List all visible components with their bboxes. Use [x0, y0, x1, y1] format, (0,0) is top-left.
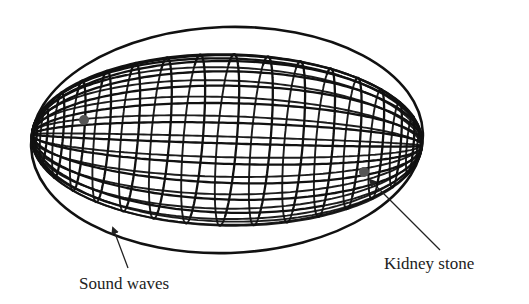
wireframe-line	[378, 89, 385, 183]
wireframe-line	[102, 71, 111, 182]
wireframe-line	[149, 69, 162, 219]
wireframe-line	[92, 84, 101, 202]
wireframe-line	[326, 68, 335, 194]
kidney-stone-label: Kidney stone	[384, 255, 474, 272]
wireframe-line	[263, 57, 273, 200]
wireframe-line	[296, 61, 306, 198]
source-focus-dot	[79, 115, 89, 125]
wireframe-line	[181, 64, 195, 223]
wireframe-line	[397, 102, 402, 175]
wireframe-line	[215, 64, 229, 226]
wireframe-line	[119, 76, 130, 212]
kidney-stone-focus-dot	[359, 167, 369, 177]
sound-waves-label: Sound waves	[79, 275, 169, 292]
wireframe-line	[324, 194, 326, 204]
sound-waves-arrow	[113, 228, 128, 268]
kidney-stone-pointer-line	[370, 180, 440, 250]
